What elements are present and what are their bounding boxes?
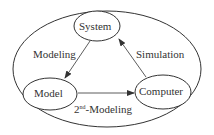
model-node-label: Model	[34, 88, 63, 99]
second-modeling-edge-label: 2nd-Modeling	[74, 104, 132, 115]
system-node-label: System	[79, 21, 111, 32]
modeling-edge-label: Modeling	[33, 49, 76, 60]
simulation-edge-label: Simulation	[136, 49, 184, 60]
second-modeling-label-rest: -Modeling	[86, 103, 132, 115]
computer-node-label: Computer	[139, 86, 183, 97]
